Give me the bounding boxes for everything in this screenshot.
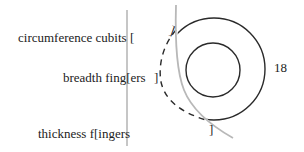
vessel-diagram: circumference cubits [ breadth fing[ers … xyxy=(0,0,304,152)
inner-circle xyxy=(186,43,240,97)
circumference-label: circumference cubits [ xyxy=(18,30,134,45)
thickness-label: thickness f[ingers xyxy=(38,126,130,141)
dimension-label-18: 18 xyxy=(274,60,287,75)
breadth-close-bracket: ] xyxy=(154,70,158,85)
breadth-label: breadth fing[ers xyxy=(63,70,146,85)
bottom-right-bracket: ] xyxy=(209,122,213,137)
